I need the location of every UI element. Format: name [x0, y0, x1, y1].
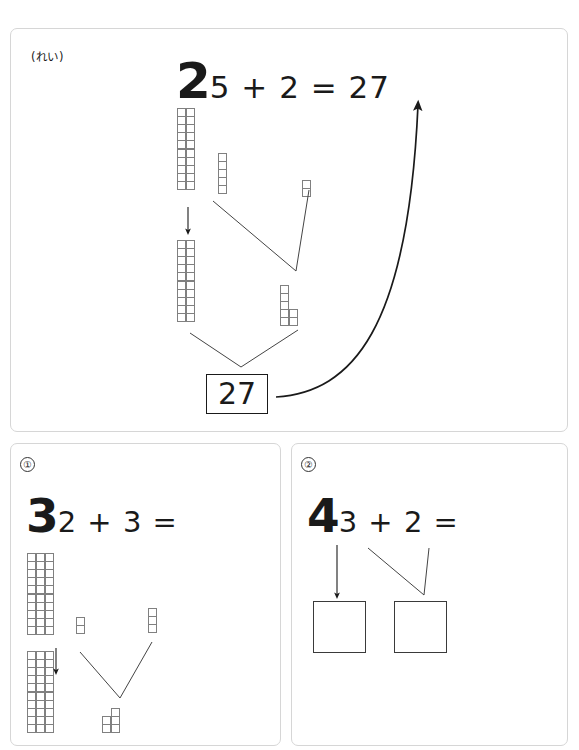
q1-bottom-tens-blocks	[27, 651, 54, 733]
tile-column	[186, 240, 195, 322]
q1-top-ones-b-blocks	[148, 608, 157, 633]
tile-column	[177, 108, 186, 190]
q1-top-ones-a-blocks	[76, 617, 85, 634]
tile-cell	[76, 625, 85, 634]
tile-cell	[289, 317, 298, 326]
equation-question-2: 4 3 + 2 =	[307, 492, 459, 539]
example-top-tens-blocks	[177, 108, 195, 190]
equation-example: 2 5 + 2 = 27	[176, 56, 390, 106]
tile-column	[186, 108, 195, 190]
equation-question-1: 3 2 + 3 =	[26, 492, 178, 539]
q1-top-tens-blocks	[27, 553, 54, 635]
tile-cell	[111, 724, 120, 733]
equation-q1-lead: 3	[26, 492, 58, 539]
panel-example-tag: (れい)	[31, 48, 64, 64]
tile-cell	[45, 724, 54, 733]
worksheet-page: (れい) 2 5 + 2 = 27 27 ① 3 2 + 3 = ② 4 3 +…	[0, 0, 579, 750]
tile-cell	[177, 181, 186, 190]
tile-column	[36, 651, 45, 733]
tile-column	[45, 651, 54, 733]
equation-q2-lead: 4	[307, 492, 339, 539]
example-top-ones-b-blocks	[302, 180, 311, 197]
equation-example-lead: 2	[176, 56, 210, 106]
tile-cell	[36, 724, 45, 733]
q2-answer-box-ones[interactable]	[394, 601, 447, 653]
tile-cell	[102, 724, 111, 733]
tile-column	[218, 153, 227, 194]
tile-cell	[280, 317, 289, 326]
tile-cell	[218, 185, 227, 194]
tile-column	[76, 617, 85, 634]
tile-column	[289, 309, 298, 326]
equation-q1-rest: 2 + 3 =	[58, 508, 178, 537]
tile-cell	[302, 188, 311, 197]
tile-column	[102, 716, 111, 733]
tile-column	[280, 285, 289, 326]
tile-column	[177, 240, 186, 322]
tile-column	[111, 708, 120, 733]
tile-cell	[36, 626, 45, 635]
tile-cell	[186, 181, 195, 190]
q1-bottom-ones-blocks	[102, 708, 120, 733]
tile-cell	[186, 313, 195, 322]
tile-column	[27, 651, 36, 733]
tile-column	[45, 553, 54, 635]
panel-question-1-number: ①	[20, 457, 35, 472]
tile-cell	[148, 624, 157, 633]
tile-cell	[177, 313, 186, 322]
tile-column	[148, 608, 157, 633]
tile-column	[27, 553, 36, 635]
example-answer-box[interactable]: 27	[206, 374, 268, 414]
example-bottom-ones-blocks	[280, 285, 298, 326]
tile-column	[302, 180, 311, 197]
tile-cell	[27, 626, 36, 635]
example-top-ones-a-blocks	[218, 153, 227, 194]
example-bottom-tens-blocks	[177, 240, 195, 322]
equation-q2-rest: 3 + 2 =	[339, 508, 459, 537]
equation-example-rest: 5 + 2 = 27	[210, 72, 390, 103]
tile-column	[36, 553, 45, 635]
tile-cell	[27, 724, 36, 733]
panel-question-2-number: ②	[301, 457, 316, 472]
q2-answer-box-tens[interactable]	[313, 601, 366, 653]
tile-cell	[45, 626, 54, 635]
